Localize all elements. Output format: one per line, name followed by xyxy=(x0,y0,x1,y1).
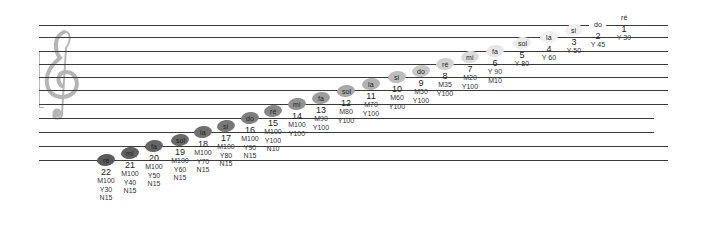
color-code: Y 30 xyxy=(609,34,639,43)
note-name: fa xyxy=(151,143,157,150)
note-name: si xyxy=(223,123,228,130)
note-name: ré xyxy=(103,157,109,164)
color-codes: Y 30 xyxy=(609,34,639,43)
color-code: M100 xyxy=(165,157,195,166)
note-number: 19 xyxy=(165,148,195,157)
staff-line xyxy=(39,132,654,133)
note-name: ré xyxy=(621,14,627,21)
note-name: la xyxy=(200,129,205,136)
note-name: mi xyxy=(466,54,473,61)
note-name: la xyxy=(368,81,373,88)
color-code: N15 xyxy=(91,194,121,203)
color-code: Y 80 xyxy=(507,60,537,69)
color-code: Y60 xyxy=(165,166,195,175)
note-name: sol xyxy=(176,137,185,144)
color-code: M60 xyxy=(382,94,412,103)
note-name: fa xyxy=(492,48,498,55)
color-code: M100 xyxy=(91,177,121,186)
note-7: mi xyxy=(460,50,479,64)
note-name: si xyxy=(394,74,399,81)
color-code: Y30 xyxy=(91,186,121,195)
note-12: sol xyxy=(336,84,355,98)
note-number: 1 xyxy=(609,25,639,34)
note-10: si xyxy=(387,70,406,84)
note-5: sol xyxy=(512,36,531,50)
note-name: sol xyxy=(518,40,527,47)
note-name: fa xyxy=(318,95,324,102)
note-18: la xyxy=(193,125,212,139)
note-2: do xyxy=(588,17,607,31)
note-20: fa xyxy=(144,139,163,153)
color-codes: M60Y100 xyxy=(382,94,412,111)
note-3: si xyxy=(564,23,583,37)
note-name: ré xyxy=(442,61,448,68)
color-codes: M100Y60N15 xyxy=(165,157,195,183)
color-codes: M100Y30N15 xyxy=(91,177,121,203)
note-4: la xyxy=(539,30,558,44)
note-name: la xyxy=(546,34,551,41)
note-number: 22 xyxy=(91,168,121,177)
note-number: 5 xyxy=(507,51,537,60)
note-22: ré xyxy=(96,153,115,167)
note-6: fa xyxy=(485,44,504,58)
note-name: ré xyxy=(270,108,276,115)
note-name: do xyxy=(417,68,425,75)
staff-line xyxy=(39,77,668,78)
color-code: Y 60 xyxy=(534,54,564,63)
treble-clef-icon xyxy=(40,28,84,122)
note-number: 10 xyxy=(382,85,412,94)
note-name: sol xyxy=(342,88,351,95)
color-codes: Y 80 xyxy=(507,60,537,69)
color-codes: Y 60 xyxy=(534,54,564,63)
note-number: 4 xyxy=(534,45,564,54)
music-staff-diagram: ré1Y 30do2Y 45si3Y 50la4Y 60sol5Y 80fa6Y… xyxy=(0,0,705,228)
note-name: do xyxy=(246,115,254,122)
note-name: mi xyxy=(126,150,133,157)
color-code: N15 xyxy=(165,174,195,183)
note-8: ré xyxy=(435,57,454,71)
note-15: ré xyxy=(263,104,282,118)
note-16: do xyxy=(240,111,259,125)
note-1: ré xyxy=(614,10,633,24)
note-name: do xyxy=(594,21,602,28)
note-14: mi xyxy=(287,97,306,111)
staff-line xyxy=(39,64,668,65)
note-name: mi xyxy=(293,101,300,108)
note-21: mi xyxy=(120,146,139,160)
color-code: Y100 xyxy=(382,103,412,112)
note-name: si xyxy=(571,27,576,34)
